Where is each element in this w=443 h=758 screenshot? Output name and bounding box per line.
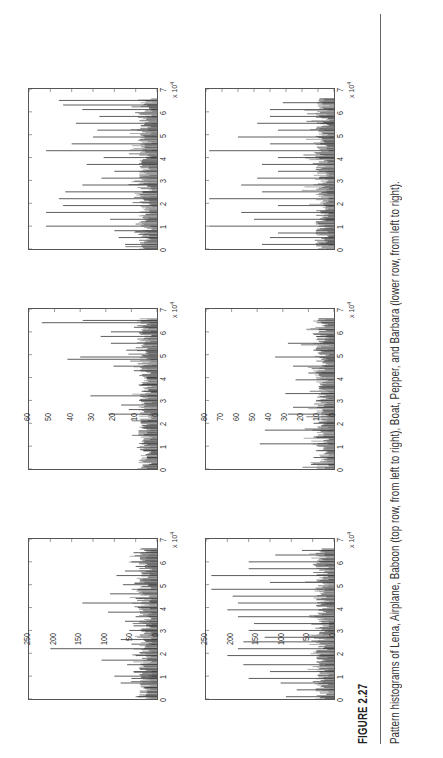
x-tick-label: 1: [335, 442, 345, 453]
y-tick-label: 20: [107, 413, 117, 421]
y-tick-label: 60: [22, 413, 32, 421]
x-tick-label: 1: [335, 222, 345, 233]
x-tick-label: 5: [335, 580, 345, 591]
x-tick-label: 2: [335, 649, 345, 660]
x-tick-label: 6: [335, 107, 345, 118]
x-tick-label: 3: [158, 396, 168, 407]
x-tick-label: 0: [335, 464, 345, 475]
x-tick-label: 7: [335, 84, 345, 95]
plot-area: [205, 88, 335, 250]
y-tick-label: 40: [263, 413, 273, 421]
x-tick-label: 6: [335, 327, 345, 338]
y-tick-label: 50: [301, 633, 311, 641]
x-tick-label: 4: [158, 603, 168, 614]
x-axis-multiplier: x 104: [169, 82, 178, 98]
y-tick-label: 0: [327, 413, 337, 417]
y-tick-label: 100: [276, 633, 286, 645]
plot-area: [28, 308, 158, 470]
x-tick-label: 1: [158, 672, 168, 683]
caption-rule: [380, 14, 381, 744]
y-tick-label: 70: [215, 413, 225, 421]
x-tick-label: 6: [335, 557, 345, 568]
figure-page: 05010015020025030001234567x 104 05010015…: [0, 0, 443, 758]
x-tick-label: 3: [158, 176, 168, 187]
y-tick-label: 50: [43, 413, 53, 421]
x-tick-label: 6: [158, 327, 168, 338]
x-tick-label: 4: [158, 153, 168, 164]
x-tick-label: 7: [335, 304, 345, 315]
y-tick-label: 10: [311, 413, 321, 421]
x-tick-label: 4: [158, 373, 168, 384]
y-tick-label: 0: [150, 633, 160, 637]
y-tick-label: 80: [199, 413, 209, 421]
x-axis-multiplier: x 104: [346, 302, 355, 318]
y-tick-label: 200: [48, 633, 58, 645]
x-tick-label: 5: [335, 130, 345, 141]
x-axis-multiplier: x 104: [169, 532, 178, 548]
y-tick-label: 0: [150, 413, 160, 417]
y-tick-label: 20: [295, 413, 305, 421]
y-tick-label: 0: [327, 633, 337, 637]
x-tick-label: 5: [158, 350, 168, 361]
y-tick-label: 50: [247, 413, 257, 421]
x-tick-label: 2: [335, 199, 345, 210]
x-tick-label: 2: [158, 649, 168, 660]
x-tick-label: 0: [158, 694, 168, 705]
figure-caption: Pattern histograms of Lena, Airplane, Ba…: [388, 181, 402, 744]
x-tick-label: 6: [158, 107, 168, 118]
plot-area: [28, 538, 158, 700]
y-tick-label: 40: [65, 413, 75, 421]
x-tick-label: 7: [158, 84, 168, 95]
x-tick-label: 5: [158, 130, 168, 141]
y-tick-label: 100: [99, 633, 109, 645]
y-tick-label: 250: [199, 633, 209, 645]
x-axis-multiplier: x 104: [169, 302, 178, 318]
x-tick-label: 0: [158, 464, 168, 475]
x-tick-label: 0: [335, 694, 345, 705]
x-tick-label: 2: [158, 199, 168, 210]
x-axis-multiplier: x 104: [346, 532, 355, 548]
y-tick-label: 30: [279, 413, 289, 421]
y-tick-label: 150: [250, 633, 260, 645]
y-tick-label: 50: [124, 633, 134, 641]
x-tick-label: 6: [158, 557, 168, 568]
x-tick-label: 4: [335, 373, 345, 384]
x-tick-label: 3: [335, 176, 345, 187]
y-tick-label: 10: [129, 413, 139, 421]
x-tick-label: 1: [335, 672, 345, 683]
x-tick-label: 0: [335, 244, 345, 255]
y-tick-label: 30: [86, 413, 96, 421]
x-tick-label: 3: [335, 396, 345, 407]
x-tick-label: 7: [158, 304, 168, 315]
x-tick-label: 7: [158, 534, 168, 545]
x-tick-label: 2: [158, 419, 168, 430]
x-tick-label: 5: [335, 350, 345, 361]
x-tick-label: 4: [335, 153, 345, 164]
x-tick-label: 4: [335, 603, 345, 614]
plot-area: [205, 308, 335, 470]
x-tick-label: 1: [158, 442, 168, 453]
y-tick-label: 250: [22, 633, 32, 645]
y-tick-label: 200: [225, 633, 235, 645]
x-tick-label: 7: [335, 534, 345, 545]
figure-label: FIGURE 2.27: [356, 684, 370, 744]
plot-area: [205, 538, 335, 700]
x-tick-label: 0: [158, 244, 168, 255]
x-axis-multiplier: x 104: [346, 82, 355, 98]
x-tick-label: 1: [158, 222, 168, 233]
plot-area: [28, 88, 158, 250]
x-tick-label: 5: [158, 580, 168, 591]
y-tick-label: 150: [73, 633, 83, 645]
x-tick-label: 2: [335, 419, 345, 430]
y-tick-label: 60: [231, 413, 241, 421]
